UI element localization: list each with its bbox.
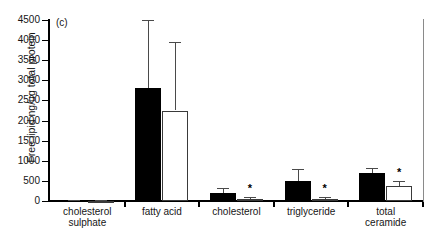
x-axis-tick-label-line: total <box>348 206 423 217</box>
x-axis-tick-label-line: ceramide <box>348 217 423 228</box>
significance-asterisk: * <box>245 183 255 194</box>
error-bar-cap <box>217 188 229 189</box>
panel-label: (c) <box>56 17 68 28</box>
error-bar-stem <box>148 20 149 88</box>
y-axis-tick <box>42 20 48 21</box>
y-axis-tick-label: 2500 <box>0 95 40 105</box>
bar <box>237 199 263 201</box>
y-axis-tick <box>42 181 48 182</box>
y-axis-tick-label: 1500 <box>0 136 40 146</box>
y-axis-tick-label: 500 <box>0 176 40 186</box>
bar <box>386 186 412 201</box>
error-bar-cap <box>366 168 378 169</box>
error-bar-cap <box>244 197 256 198</box>
plot-frame-right <box>423 19 424 202</box>
y-axis-tick-label-wrap: 2500 <box>0 95 40 105</box>
y-axis-tick-label: 4000 <box>0 35 40 45</box>
x-axis-tick-label: cholesterolsulphate <box>50 206 125 228</box>
y-axis-tick-label-wrap: 2000 <box>0 116 40 126</box>
x-axis-tick-label: triglyceride <box>274 206 349 217</box>
y-axis-tick <box>42 80 48 81</box>
bar <box>210 193 236 201</box>
bar <box>162 111 188 202</box>
x-axis-tick-label-line: cholesterol <box>50 206 125 217</box>
x-axis-tick-label: cholesterol <box>199 206 274 217</box>
error-bar-cap <box>319 197 331 198</box>
y-axis-tick-label-wrap: 1500 <box>0 136 40 146</box>
y-axis-tick <box>42 201 48 202</box>
x-axis-tick-label: fatty acid <box>125 206 200 217</box>
significance-asterisk: * <box>394 167 404 178</box>
bar <box>135 88 161 201</box>
x-axis-tick-label-line: cholesterol <box>199 206 274 217</box>
y-axis-tick <box>42 121 48 122</box>
y-axis-tick <box>42 100 48 101</box>
bar <box>312 199 338 201</box>
error-bar-cap <box>142 20 154 21</box>
error-bar-cap <box>393 181 405 182</box>
error-bar-cap <box>68 200 80 201</box>
y-axis-tick-label-wrap: 4000 <box>0 35 40 45</box>
bar <box>285 181 311 201</box>
y-axis-tick-label-wrap: 4500 <box>0 15 40 25</box>
y-axis-tick-label-wrap: 3000 <box>0 75 40 85</box>
y-axis-tick-label-wrap: 3500 <box>0 55 40 65</box>
y-axis-tick-label: 3000 <box>0 75 40 85</box>
y-axis-tick-label-wrap: 1000 <box>0 156 40 166</box>
x-axis-tick-label: totalceramide <box>348 206 423 228</box>
error-bar-cap <box>169 42 181 43</box>
y-axis-tick <box>42 141 48 142</box>
error-bar-stem <box>175 42 176 110</box>
y-axis-tick-label: 4500 <box>0 15 40 25</box>
y-axis-tick <box>42 161 48 162</box>
x-axis-tick-label-line: fatty acid <box>125 206 200 217</box>
bar <box>359 173 385 201</box>
significance-asterisk: * <box>320 183 330 194</box>
y-axis-line <box>48 19 50 202</box>
y-axis-tick-label: 3500 <box>0 55 40 65</box>
x-axis-tick-label-line: sulphate <box>50 217 125 228</box>
y-axis-tick-label-wrap: 500 <box>0 176 40 186</box>
error-bar-cap <box>95 200 107 201</box>
error-bar-stem <box>298 169 299 181</box>
y-axis-tick-label: 1000 <box>0 156 40 166</box>
y-axis-tick <box>42 60 48 61</box>
error-bar-cap <box>292 169 304 170</box>
y-axis-tick-label: 2000 <box>0 116 40 126</box>
y-axis-tick <box>42 40 48 41</box>
x-axis-tick-label-line: triglyceride <box>274 206 349 217</box>
y-axis-tick-label: 0 <box>0 196 40 206</box>
y-axis-tick-label-wrap: 0 <box>0 196 40 206</box>
chart-figure: Free lipid ng/ug total protein (c) 05001… <box>0 0 431 230</box>
